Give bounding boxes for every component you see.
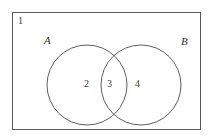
region-label-a-only: 2	[84, 79, 89, 89]
set-b-label: B	[181, 36, 188, 47]
venn-diagram-canvas	[0, 0, 212, 139]
universe-region-label: 1	[18, 16, 23, 26]
universal-set-rectangle	[13, 13, 201, 130]
region-label-b-only: 4	[135, 79, 140, 89]
region-label-intersection: 3	[107, 79, 112, 89]
venn-diagram: 1 A B 2 3 4	[0, 0, 212, 139]
set-a-label: A	[44, 35, 51, 46]
